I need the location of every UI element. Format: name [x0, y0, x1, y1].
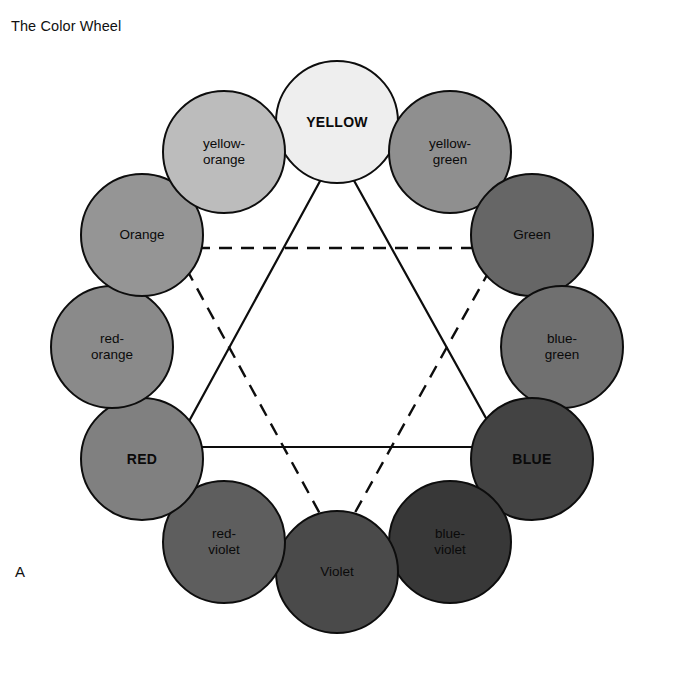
color-swatch-label: Violet — [316, 564, 358, 580]
color-swatch-label: yellow-green — [425, 136, 475, 168]
color-swatch-label: red-orange — [87, 331, 137, 363]
color-swatch-label: RED — [123, 451, 161, 468]
color-swatch-label: Green — [509, 227, 555, 243]
color-wheel-figure: The Color Wheel YELLOWyellow-greenGreenb… — [0, 0, 677, 682]
color-swatch-red-orange[interactable]: red-orange — [50, 285, 174, 409]
color-swatch-violet[interactable]: Violet — [275, 510, 399, 634]
color-swatch-label: red-violet — [204, 526, 244, 558]
color-swatch-label: blue-violet — [430, 526, 470, 558]
color-swatch-green[interactable]: Green — [470, 173, 594, 297]
color-swatch-yellow-orange[interactable]: yellow-orange — [162, 90, 286, 214]
color-swatch-yellow[interactable]: YELLOW — [275, 60, 399, 184]
color-swatch-label: yellow-orange — [199, 136, 249, 168]
color-swatch-label: YELLOW — [302, 114, 372, 131]
color-swatch-blue-violet[interactable]: blue-violet — [388, 480, 512, 604]
color-swatch-label: blue-green — [541, 331, 584, 363]
color-swatch-blue-green[interactable]: blue-green — [500, 285, 624, 409]
color-swatch-label: Orange — [115, 227, 168, 243]
panel-label: A — [15, 563, 25, 580]
color-swatch-label: BLUE — [508, 451, 555, 468]
color-swatch-red[interactable]: RED — [80, 397, 204, 521]
